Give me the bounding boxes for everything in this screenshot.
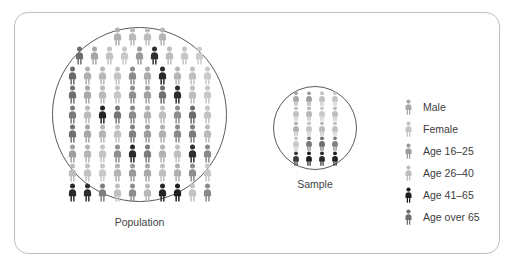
person-icon (133, 46, 146, 65)
population-caption: Population (0, 216, 279, 228)
person-icon (141, 124, 154, 143)
person-icon (201, 66, 214, 85)
person-icon (111, 183, 124, 202)
person-icon (186, 66, 199, 85)
diagram-canvas: Population Sample MaleFemaleAge 16–25Age… (0, 0, 516, 269)
person-icon (141, 105, 154, 124)
person-icon-age-26-40 (403, 165, 414, 181)
person-icon (126, 85, 139, 104)
person-icon (126, 163, 139, 182)
person-icon (291, 136, 301, 151)
pictogram-row (52, 66, 227, 85)
person-icon (193, 46, 206, 65)
pictogram-row (52, 46, 227, 65)
person-icon (330, 91, 340, 106)
person-icon (156, 163, 169, 182)
person-icon (96, 105, 109, 124)
pictogram-row (273, 136, 357, 151)
legend-item-label: Age 41–65 (423, 190, 474, 201)
person-icon (317, 121, 327, 136)
person-icon (111, 85, 124, 104)
person-icon (141, 85, 154, 104)
person-icon (148, 46, 161, 65)
person-icon (96, 85, 109, 104)
person-icon (291, 151, 301, 166)
person-icon (81, 183, 94, 202)
person-icon (186, 124, 199, 143)
person-icon (156, 27, 169, 46)
person-icon (317, 106, 327, 121)
sample-pictogram-grid (273, 86, 357, 170)
pictogram-row (52, 183, 227, 202)
person-icon (126, 105, 139, 124)
person-icon (186, 144, 199, 163)
person-icon (201, 144, 214, 163)
person-icon (141, 66, 154, 85)
person-icon (103, 46, 116, 65)
legend-item: Age over 65 (403, 206, 480, 228)
person-icon-age-16-25 (403, 143, 414, 159)
legend-item-label: Female (423, 124, 458, 135)
person-icon (201, 163, 214, 182)
person-icon (66, 66, 79, 85)
person-icon (317, 136, 327, 151)
person-icon (111, 144, 124, 163)
person-icon (171, 183, 184, 202)
person-icon (111, 27, 124, 46)
person-icon (81, 163, 94, 182)
person-icon (304, 136, 314, 151)
pictogram-row (52, 163, 227, 182)
person-icon (156, 85, 169, 104)
person-icon (96, 124, 109, 143)
population-pictogram-grid (52, 27, 227, 202)
person-icon (126, 183, 139, 202)
person-icon (178, 46, 191, 65)
person-icon (186, 183, 199, 202)
person-icon (96, 66, 109, 85)
person-icon (141, 183, 154, 202)
person-icon (304, 91, 314, 106)
sample-caption: Sample (273, 178, 357, 190)
person-icon (304, 151, 314, 166)
legend-item-label: Male (423, 102, 446, 113)
person-icon (171, 163, 184, 182)
person-icon (156, 144, 169, 163)
person-icon (186, 105, 199, 124)
person-icon (66, 163, 79, 182)
person-icon (291, 121, 301, 136)
person-icon (126, 27, 139, 46)
person-icon-female (403, 121, 414, 137)
person-icon (81, 105, 94, 124)
person-icon (66, 85, 79, 104)
person-icon (126, 66, 139, 85)
person-icon (126, 124, 139, 143)
person-icon (156, 124, 169, 143)
person-icon (118, 46, 131, 65)
legend-item: Age 16–25 (403, 140, 480, 162)
person-icon (141, 144, 154, 163)
person-icon (88, 46, 101, 65)
person-icon (141, 27, 154, 46)
person-icon (186, 85, 199, 104)
person-icon (201, 183, 214, 202)
legend-item-label: Age 16–25 (423, 146, 474, 157)
legend: MaleFemaleAge 16–25Age 26–40Age 41–65Age… (403, 96, 480, 228)
person-icon (66, 144, 79, 163)
person-icon (156, 183, 169, 202)
person-icon (317, 151, 327, 166)
person-icon (111, 163, 124, 182)
person-icon (201, 105, 214, 124)
person-icon (96, 183, 109, 202)
person-icon (126, 144, 139, 163)
person-icon (171, 105, 184, 124)
person-icon (81, 66, 94, 85)
legend-item: Age 26–40 (403, 162, 480, 184)
person-icon (156, 105, 169, 124)
person-icon (291, 91, 301, 106)
person-icon (156, 66, 169, 85)
person-icon-male (403, 99, 414, 115)
person-icon (330, 151, 340, 166)
person-icon (111, 105, 124, 124)
pictogram-row (52, 124, 227, 143)
person-icon (66, 124, 79, 143)
